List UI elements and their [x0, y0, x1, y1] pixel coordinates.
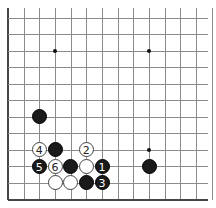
- board-edge-left: [7, 8, 9, 200]
- grid-line-horizontal: [8, 34, 208, 35]
- star-point-icon: [147, 49, 151, 53]
- grid-line-horizontal: [8, 84, 208, 85]
- black-stone: [142, 159, 157, 174]
- grid-line-vertical: [24, 8, 25, 200]
- black-stone-move-3: 3: [95, 175, 110, 190]
- white-stone: [79, 159, 94, 174]
- grid-line-vertical: [133, 8, 134, 200]
- white-stone: [48, 175, 63, 190]
- black-stone: [63, 159, 78, 174]
- white-stone-move-2: 2: [79, 142, 94, 157]
- grid-line-vertical: [118, 8, 119, 200]
- board-edge-bottom: [8, 199, 208, 201]
- grid-line-horizontal: [8, 100, 208, 101]
- grid-line-horizontal: [8, 51, 208, 52]
- white-stone-move-6: 6: [48, 159, 63, 174]
- go-board[interactable]: 425613: [0, 0, 216, 208]
- star-point-icon: [147, 148, 151, 152]
- grid-line-horizontal: [8, 67, 208, 68]
- white-stone: [63, 175, 78, 190]
- black-stone-move-5: 5: [32, 159, 47, 174]
- grid-line-vertical: [165, 8, 166, 200]
- black-stone: [79, 175, 94, 190]
- grid-line-vertical: [180, 8, 181, 200]
- black-stone-move-1: 1: [95, 159, 110, 174]
- black-stone: [48, 142, 63, 157]
- grid-line-horizontal: [8, 133, 208, 134]
- grid-line-horizontal: [8, 18, 208, 19]
- black-stone: [32, 109, 47, 124]
- grid-line-vertical: [212, 8, 213, 200]
- grid-line-vertical: [196, 8, 197, 200]
- white-stone-move-4: 4: [32, 142, 47, 157]
- star-point-icon: [53, 49, 57, 53]
